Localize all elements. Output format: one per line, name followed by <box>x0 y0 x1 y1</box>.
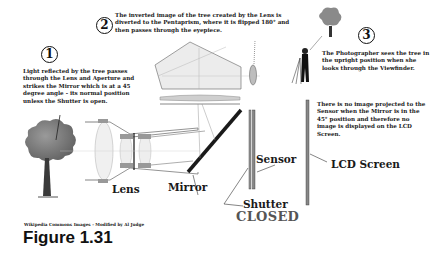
image-credit: Wikipedia Commons Images - Modified by A… <box>24 222 144 227</box>
sensor-note-text: There is no image projected to the Senso… <box>317 101 427 138</box>
photographer-icon <box>292 8 342 85</box>
step-1-text: Light reflected by the tree passes throu… <box>23 68 151 105</box>
step-2-text: The inverted image of the tree created b… <box>115 12 295 34</box>
pentaprism <box>155 42 260 89</box>
diagram-canvas: 1 Light reflected by the tree passes thr… <box>0 0 435 254</box>
sensor-label: Sensor <box>256 153 296 165</box>
step-3-badge: 3 <box>358 27 375 44</box>
lens-label: Lens <box>112 183 140 195</box>
step-2-badge: 2 <box>96 17 113 34</box>
mirror-label: Mirror <box>168 181 207 193</box>
shutter-state-label: CLOSED <box>236 209 299 224</box>
eyepiece <box>250 65 257 85</box>
step-3-text: The Photographer sees the tree in the up… <box>322 50 432 72</box>
lcd-screen-label: LCD Screen <box>331 158 400 170</box>
shutter <box>249 110 251 189</box>
lcd-screen <box>306 100 309 205</box>
step-1-badge: 1 <box>41 46 58 63</box>
mirror <box>188 110 241 172</box>
tree-icon <box>25 119 76 197</box>
lens-assembly <box>60 119 200 183</box>
focusing-screen <box>160 95 240 101</box>
figure-caption: Figure 1.31 <box>23 228 113 248</box>
sensor <box>253 110 256 189</box>
